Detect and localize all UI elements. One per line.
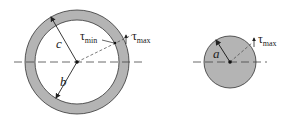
label-b: b: [60, 74, 67, 89]
center-point: [75, 60, 79, 64]
tau-min-point: [114, 42, 117, 45]
label-c: c: [56, 36, 62, 51]
center-point-right: [228, 60, 232, 64]
hollow-shaft: c b τmin τmax: [14, 10, 151, 114]
label-a: a: [213, 46, 220, 61]
label-tau-max-left: τmax: [132, 29, 151, 45]
radius-c-arrow: [51, 17, 77, 62]
label-tau-min: τmin: [80, 29, 97, 45]
shaft-stress-diagram: c b τmin τmax a τmax: [0, 0, 294, 121]
tau-min-pointer: [102, 40, 114, 43]
label-tau-max-right: τmax: [258, 32, 277, 48]
diagram-canvas: c b τmin τmax a τmax: [0, 0, 294, 121]
solid-shaft: a τmax: [193, 32, 277, 88]
